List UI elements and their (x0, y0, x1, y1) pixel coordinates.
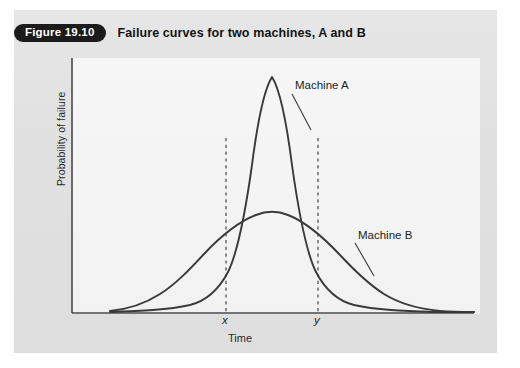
x-tick-label-x: x (222, 314, 228, 326)
curve-machine-a (110, 77, 474, 312)
series-label-machine-a: Machine A (295, 79, 349, 91)
figure-root: Figure 19.10 Failure curves for two mach… (0, 0, 520, 368)
curve-machine-b (110, 212, 474, 312)
leader-line-machine-b (355, 243, 374, 276)
leader-line-machine-a (292, 94, 311, 130)
chart-canvas (0, 0, 520, 368)
x-axis-label: Time (228, 332, 252, 344)
x-tick-label-y: y (314, 314, 320, 326)
series-label-machine-b: Machine B (358, 229, 412, 241)
